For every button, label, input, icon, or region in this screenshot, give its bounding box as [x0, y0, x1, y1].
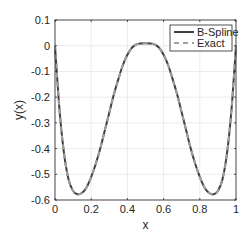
y-tick-label: -0.1	[31, 65, 50, 77]
x-tick-labels: 00.20.40.60.81	[52, 203, 239, 215]
y-tick-label: -0.2	[31, 91, 50, 103]
legend: B-Spline Exact	[170, 25, 239, 51]
x-axis-label: x	[143, 218, 149, 232]
line-chart: 00.20.40.60.81 0.10-0.1-0.2-0.3-0.4-0.5-…	[0, 0, 251, 241]
y-tick-label: -0.3	[31, 117, 50, 129]
plot-curves	[55, 43, 236, 194]
x-tick-label: 0.8	[192, 203, 207, 215]
legend-label-exact: Exact	[197, 37, 225, 49]
y-tick-label: -0.6	[31, 194, 50, 206]
x-tick-label: 0.6	[156, 203, 171, 215]
y-tick-label: -0.4	[31, 143, 50, 155]
y-tick-label: 0	[44, 40, 50, 52]
y-tick-label: 0.1	[35, 14, 50, 26]
x-tick-label: 0.2	[84, 203, 99, 215]
x-tick-label: 0	[52, 203, 58, 215]
y-tick-labels: 0.10-0.1-0.2-0.3-0.4-0.5-0.6	[31, 14, 50, 206]
y-tick-label: -0.5	[31, 168, 50, 180]
series-exact-line	[55, 43, 236, 194]
x-tick-label: 1	[233, 203, 239, 215]
y-axis-label: y(x)	[12, 100, 26, 120]
x-tick-label: 0.4	[120, 203, 135, 215]
series-b-spline-line	[55, 43, 236, 194]
